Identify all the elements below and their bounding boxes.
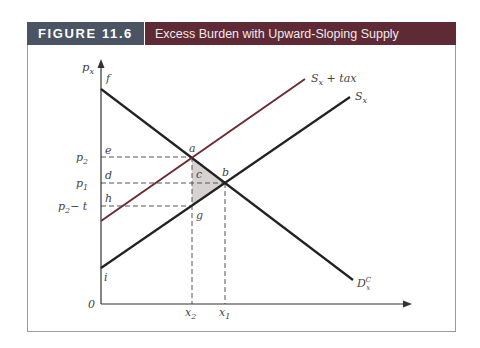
chart-plot: px 0 p2 p1 p2− t x2 x1 f e d h i a b c g… (0, 0, 480, 348)
label-demand: DCx (356, 276, 372, 292)
tick-p2-minus-t: p2− t (58, 200, 88, 215)
x-axis-arrow-icon (403, 301, 412, 308)
point-d: d (105, 169, 112, 182)
point-f: f (105, 72, 112, 85)
point-g: g (196, 209, 203, 222)
point-a: a (189, 142, 196, 155)
tick-x1: x1 (219, 306, 230, 321)
tick-p2: p2 (76, 151, 88, 166)
point-e: e (105, 144, 112, 157)
point-b: b (222, 166, 229, 179)
demand-curve (101, 89, 353, 280)
y-axis-label: px (82, 60, 94, 76)
tick-p1: p1 (76, 177, 88, 192)
excess-burden-triangle (192, 157, 225, 206)
label-supply-plus-tax: Sx + tax (311, 72, 357, 87)
y-axis-arrow-icon (98, 59, 105, 68)
tick-x2: x2 (185, 306, 196, 321)
point-h: h (105, 192, 112, 205)
point-i: i (104, 271, 108, 284)
label-supply: Sx (355, 90, 368, 105)
point-c: c (196, 168, 202, 181)
origin-label: 0 (88, 298, 95, 311)
